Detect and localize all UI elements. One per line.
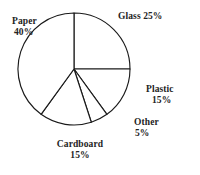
pie-label-paper-name: Paper <box>12 16 37 26</box>
pie-label-paper-value: 40% <box>12 27 37 38</box>
pie-label-glass: Glass 25% <box>118 11 162 22</box>
pie-label-other-name: Other <box>134 117 159 127</box>
pie-label-cardboard-value: 15% <box>38 150 122 161</box>
pie-label-plastic-name: Plastic <box>146 84 174 94</box>
pie-label-other: Other 5% <box>134 117 159 139</box>
pie-label-plastic: Plastic 15% <box>146 84 174 106</box>
pie-label-paper: Paper 40% <box>12 16 37 38</box>
pie-chart-screenshot: Glass 25% Paper 40% Plastic 15% Other 5%… <box>0 0 200 175</box>
pie-label-plastic-value: 15% <box>146 95 174 106</box>
pie-label-glass-text: Glass 25% <box>118 11 162 21</box>
pie-label-cardboard: Cardboard 15% <box>38 139 122 161</box>
pie-label-other-value: 5% <box>134 128 159 139</box>
pie-label-cardboard-name: Cardboard <box>57 139 103 149</box>
